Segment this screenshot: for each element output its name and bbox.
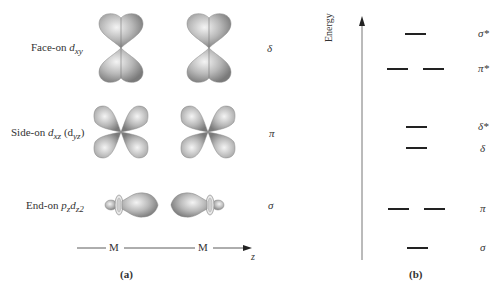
energy-axis	[359, 16, 365, 260]
dz2-orbital-right	[171, 193, 224, 217]
level-label-pi-star: π*	[478, 62, 489, 74]
level-pi-star-a	[387, 68, 408, 70]
level-label-sigma-star: σ*	[478, 27, 489, 39]
dxz-orbital-right	[181, 106, 235, 158]
level-pi-b	[424, 208, 445, 210]
energy-axis-label: Energy	[323, 13, 334, 42]
symmetry-pi-label: π	[269, 127, 275, 139]
bond-axis	[77, 245, 252, 251]
dz2-orbital-left	[105, 193, 158, 217]
z-axis-label: z	[251, 251, 255, 262]
level-pi-a	[388, 208, 409, 210]
panel-b-caption: (b)	[409, 268, 422, 280]
symmetry-delta-label: δ	[267, 42, 272, 54]
level-label-delta-star: δ*	[478, 120, 489, 132]
row-label-face-on: Face-on dxy	[31, 41, 83, 56]
level-delta-star	[406, 126, 427, 128]
row-label-end-on: End-on pzdz2	[26, 199, 84, 214]
dxy-orbital-right	[187, 14, 231, 83]
level-label-delta: δ	[480, 142, 485, 154]
symmetry-sigma-label: σ	[268, 199, 273, 211]
level-label-sigma: σ	[480, 241, 485, 253]
atom-m-right: M	[198, 241, 208, 253]
level-sigma-star	[405, 33, 426, 35]
dxy-orbital-left	[99, 14, 143, 83]
panel-a-caption: (a)	[120, 268, 133, 280]
level-delta	[406, 147, 427, 149]
atom-m-left: M	[109, 241, 119, 253]
dxz-orbital-left	[94, 106, 148, 158]
level-sigma	[407, 247, 428, 249]
row-label-side-on: Side-on dxz (dyz)	[11, 126, 84, 141]
level-pi-star-b	[423, 68, 444, 70]
level-label-pi: π	[480, 202, 486, 214]
